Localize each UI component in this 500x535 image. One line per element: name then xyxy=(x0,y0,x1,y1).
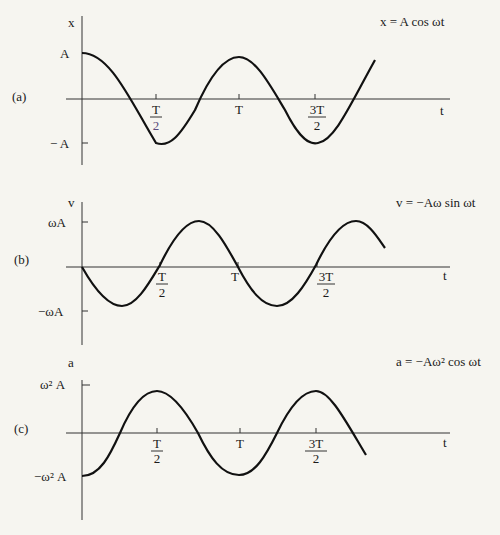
y-tick-bottom-label: −ω² A xyxy=(34,469,67,484)
y-axis-label: x xyxy=(68,15,75,30)
tick-label-den: 2 xyxy=(313,451,320,466)
y-tick-bottom-label: −ωA xyxy=(38,304,64,319)
tick-label-den: 2 xyxy=(153,118,160,133)
tick-label-num: T xyxy=(236,436,244,451)
y-tick-bottom-label: − A xyxy=(50,136,70,151)
panel-a-position: x A − A (a) t x = A cos ωt T 2 T 3T 2 xyxy=(12,14,450,165)
x-axis-label: t xyxy=(443,435,447,450)
y-tick-top-label: A xyxy=(60,46,70,61)
tick-label-den: 2 xyxy=(323,285,330,300)
tick-label-num: 3T xyxy=(319,269,334,284)
tick-label-num: T xyxy=(231,269,239,284)
tick-label-den: 2 xyxy=(314,118,321,133)
y-tick-top-label: ω² A xyxy=(40,377,66,392)
x-axis-label: t xyxy=(440,103,444,118)
shm-diagram: x A − A (a) t x = A cos ωt T 2 T 3T 2 v … xyxy=(0,0,500,535)
tick-label-den: 2 xyxy=(159,285,166,300)
tick-label-num: T xyxy=(158,269,166,284)
tick-label-num: 3T xyxy=(310,102,325,117)
tick-label-num: T xyxy=(152,102,160,117)
panel-label: (b) xyxy=(14,252,29,267)
equation: v = −Aω sin ωt xyxy=(396,195,476,210)
y-axis-label: v xyxy=(68,195,75,210)
panel-b-velocity: v ωA −ωA (b) t v = −Aω sin ωt T 2 T 3T 2 xyxy=(14,195,476,345)
velocity-curve xyxy=(82,221,385,306)
y-axis-label: a xyxy=(68,355,74,370)
tick-label-num: T xyxy=(153,436,161,451)
tick-label-num: T xyxy=(235,102,243,117)
equation: x = A cos ωt xyxy=(380,14,445,29)
panel-c-acceleration: a ω² A −ω² A (c) t a = −Aω² cos ωt T 2 T… xyxy=(14,354,481,520)
tick-label-num: 3T xyxy=(309,436,324,451)
equation: a = −Aω² cos ωt xyxy=(396,354,481,369)
panel-label: (a) xyxy=(12,89,26,104)
tick-label-den: 2 xyxy=(154,451,161,466)
x-axis-label: t xyxy=(443,268,447,283)
panel-label: (c) xyxy=(14,421,28,436)
y-tick-top-label: ωA xyxy=(48,215,67,230)
